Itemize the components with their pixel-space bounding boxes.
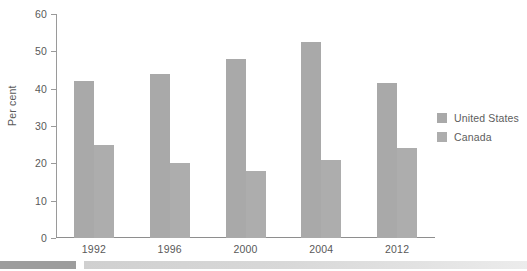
bar-canada-1992 — [94, 145, 114, 238]
legend-item: United States — [437, 112, 519, 124]
bottom-decorative-strip — [0, 260, 527, 271]
bar-canada-2000 — [246, 171, 266, 238]
x-axis-tick-label: 2012 — [385, 243, 409, 255]
bar-group — [226, 14, 266, 238]
legend-label: United States — [454, 112, 519, 124]
bar-group — [150, 14, 190, 238]
x-axis-tick-label: 2000 — [233, 243, 257, 255]
bar-group — [377, 14, 417, 238]
bar-united-states-1996 — [150, 74, 170, 238]
x-axis-tick-label: 1992 — [82, 243, 106, 255]
bar-chart-figure: Per cent 0102030405060 19921996200020042… — [0, 0, 527, 271]
bar-united-states-2004 — [301, 42, 321, 238]
bar-united-states-1992 — [74, 81, 94, 238]
y-axis-tick-label: 0 — [41, 232, 47, 244]
y-axis-tick — [51, 238, 56, 239]
strip-segment-light — [84, 261, 527, 269]
y-axis-tick-label: 50 — [35, 45, 47, 57]
plot-area — [56, 14, 435, 238]
legend-swatch-icon — [437, 113, 447, 123]
bar-group — [301, 14, 341, 238]
x-axis-tick-label: 1996 — [158, 243, 182, 255]
legend-item: Canada — [437, 131, 519, 143]
y-axis-tick-label: 10 — [35, 195, 47, 207]
x-axis-tick-label: 2004 — [309, 243, 333, 255]
y-axis-tick-label: 30 — [35, 120, 47, 132]
bar-united-states-2012 — [377, 83, 397, 238]
bar-group — [74, 14, 114, 238]
y-axis-tick-label: 20 — [35, 157, 47, 169]
bar-united-states-2000 — [226, 59, 246, 238]
bar-canada-1996 — [170, 163, 190, 238]
bar-canada-2004 — [321, 160, 341, 238]
y-axis-title: Per cent — [6, 85, 18, 126]
legend-swatch-icon — [437, 132, 447, 142]
bar-canada-2012 — [397, 148, 417, 238]
y-axis-tick-label: 60 — [35, 8, 47, 20]
legend-label: Canada — [454, 131, 492, 143]
chart-legend: United StatesCanada — [437, 112, 519, 143]
strip-segment-dark — [0, 261, 76, 269]
y-axis-tick-label: 40 — [35, 83, 47, 95]
